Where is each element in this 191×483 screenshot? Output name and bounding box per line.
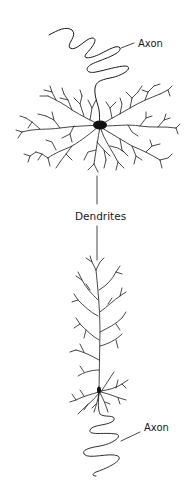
top-axon — [49, 28, 129, 123]
apical-dendrite — [70, 256, 126, 390]
bottom-axon-leader — [121, 432, 140, 441]
dendrites-label: Dendrites — [75, 210, 126, 222]
neuron-diagram: Axon Dendrites Axon — [0, 0, 191, 483]
top-axon-leader — [121, 43, 134, 48]
bottom-soma — [97, 387, 101, 394]
bottom-axon-label: Axon — [144, 422, 169, 433]
top-soma — [93, 121, 107, 130]
bottom-neuron — [70, 256, 140, 476]
top-neuron — [16, 28, 180, 172]
top-axon-label: Axon — [138, 38, 163, 49]
bottom-axon — [84, 394, 120, 476]
